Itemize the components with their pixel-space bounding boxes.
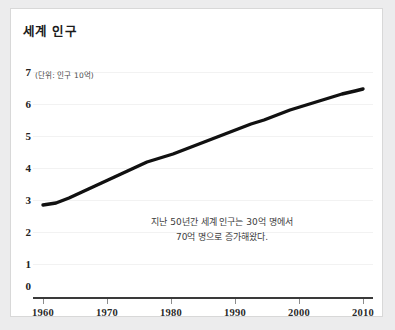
chart-card: 세계 인구 7 6 5 4 3 2 1 0 (단위: 인구 10억) 1960 … xyxy=(10,8,383,317)
x-tick-mark-1970 xyxy=(107,299,108,304)
x-tick-mark-1990 xyxy=(235,299,236,304)
population-line-path xyxy=(43,89,363,205)
population-line-series xyxy=(11,9,383,317)
x-tick-mark-2010 xyxy=(363,299,364,304)
x-tick-label-2000: 2000 xyxy=(276,307,322,317)
x-tick-label-1990: 1990 xyxy=(212,307,258,317)
x-tick-label-1970: 1970 xyxy=(84,307,130,317)
x-tick-mark-1980 xyxy=(171,299,172,304)
x-tick-label-1960: 1960 xyxy=(20,307,66,317)
x-tick-label-1980: 1980 xyxy=(148,307,194,317)
plot-area: 7 6 5 4 3 2 1 0 (단위: 인구 10억) 1960 1970 1… xyxy=(11,9,383,317)
chart-annotation-line-2: 70억 명으로 증가해왔다. xyxy=(107,230,337,245)
chart-annotation-line-1: 지난 50년간 세계 인구는 30억 명에서 xyxy=(107,215,337,230)
x-tick-mark-1960 xyxy=(43,299,44,304)
x-tick-label-2010: 2010 xyxy=(340,307,383,317)
x-axis-line xyxy=(33,297,373,299)
x-tick-mark-2000 xyxy=(299,299,300,304)
chart-annotation: 지난 50년간 세계 인구는 30억 명에서 70억 명으로 증가해왔다. xyxy=(107,215,337,245)
